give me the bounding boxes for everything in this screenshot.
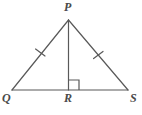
segment-pq (12, 20, 69, 90)
congruence-tick-ps-icon (94, 51, 103, 58)
vertex-label-s: S (130, 92, 137, 104)
geometry-figure: P Q R S (0, 0, 142, 115)
right-angle-marker-r (69, 80, 79, 90)
vertex-label-r: R (64, 92, 72, 104)
vertex-label-p: P (64, 1, 71, 13)
vertex-label-q: Q (2, 92, 11, 104)
